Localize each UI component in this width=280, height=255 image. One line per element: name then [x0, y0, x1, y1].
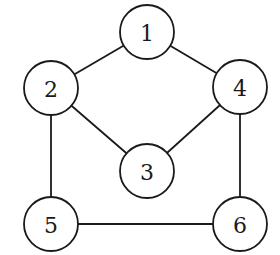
nodes-layer: 123456 — [24, 5, 267, 251]
node-label: 3 — [140, 160, 154, 185]
node-5: 5 — [24, 197, 78, 251]
node-label: 2 — [44, 77, 58, 102]
node-3: 3 — [120, 144, 174, 198]
node-label: 5 — [44, 213, 58, 238]
node-label: 1 — [140, 21, 154, 46]
node-label: 6 — [233, 213, 247, 238]
node-2: 2 — [24, 61, 78, 115]
graph-diagram: 123456 — [0, 0, 280, 255]
node-label: 4 — [233, 76, 247, 101]
node-4: 4 — [213, 60, 267, 114]
node-1: 1 — [120, 5, 174, 59]
node-6: 6 — [213, 197, 267, 251]
